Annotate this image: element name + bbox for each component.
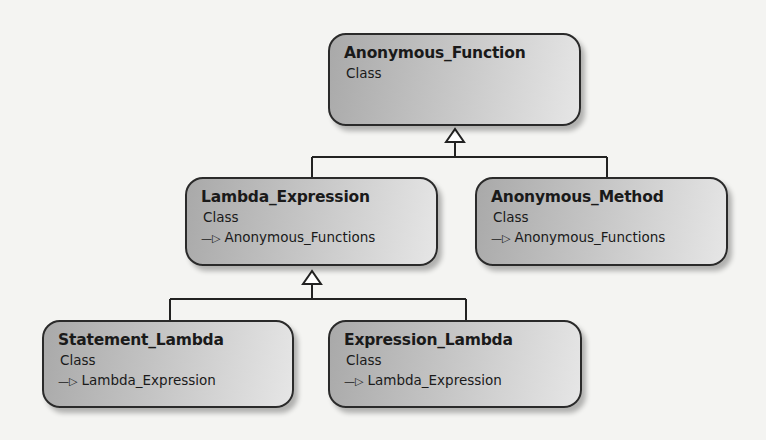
class-name: Expression_Lambda <box>344 330 580 350</box>
class-stereotype: Class <box>346 350 580 370</box>
class-name: Anonymous_Function <box>344 43 579 63</box>
inherits-arrow-icon: —▷ <box>491 229 510 249</box>
generalization-arrowhead-icon <box>303 271 321 284</box>
class-node-anonymous-method[interactable]: Anonymous_Method Class —▷Anonymous_Funct… <box>475 177 728 266</box>
class-node-expression-lambda[interactable]: Expression_Lambda Class —▷Lambda_Express… <box>328 320 582 408</box>
class-stereotype: Class <box>60 350 292 370</box>
parent-class: Lambda_Expression <box>367 372 501 388</box>
generalization-arrowhead-icon <box>446 129 464 142</box>
inherits-arrow-icon: —▷ <box>344 372 363 392</box>
parent-class: Anonymous_Functions <box>514 229 665 245</box>
inherits-arrow-icon: —▷ <box>58 372 77 392</box>
class-node-lambda-expression[interactable]: Lambda_Expression Class —▷Anonymous_Func… <box>185 177 438 266</box>
class-name: Anonymous_Method <box>491 187 726 207</box>
class-name: Statement_Lambda <box>58 330 292 350</box>
class-stereotype: Class <box>346 63 579 83</box>
class-stereotype: Class <box>203 207 436 227</box>
class-node-statement-lambda[interactable]: Statement_Lambda Class —▷Lambda_Expressi… <box>42 320 294 408</box>
class-node-anonymous-function[interactable]: Anonymous_Function Class <box>328 33 581 126</box>
inherits-arrow-icon: —▷ <box>201 229 220 249</box>
parent-class: Lambda_Expression <box>81 372 215 388</box>
parent-class: Anonymous_Functions <box>224 229 375 245</box>
class-name: Lambda_Expression <box>201 187 436 207</box>
class-stereotype: Class <box>493 207 726 227</box>
